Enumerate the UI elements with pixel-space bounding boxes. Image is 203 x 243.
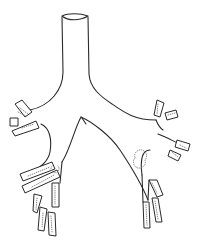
- bronchial-tree-illustration: [0, 0, 203, 243]
- right-upper-bronchi: [141, 100, 190, 175]
- right-lower-bronchi: [133, 150, 163, 228]
- left-lower-bronchi: [20, 162, 62, 236]
- bronchial-tree-drawing: [0, 0, 203, 243]
- trachea: [30, 14, 156, 120]
- left-upper-bronchi: [10, 100, 51, 174]
